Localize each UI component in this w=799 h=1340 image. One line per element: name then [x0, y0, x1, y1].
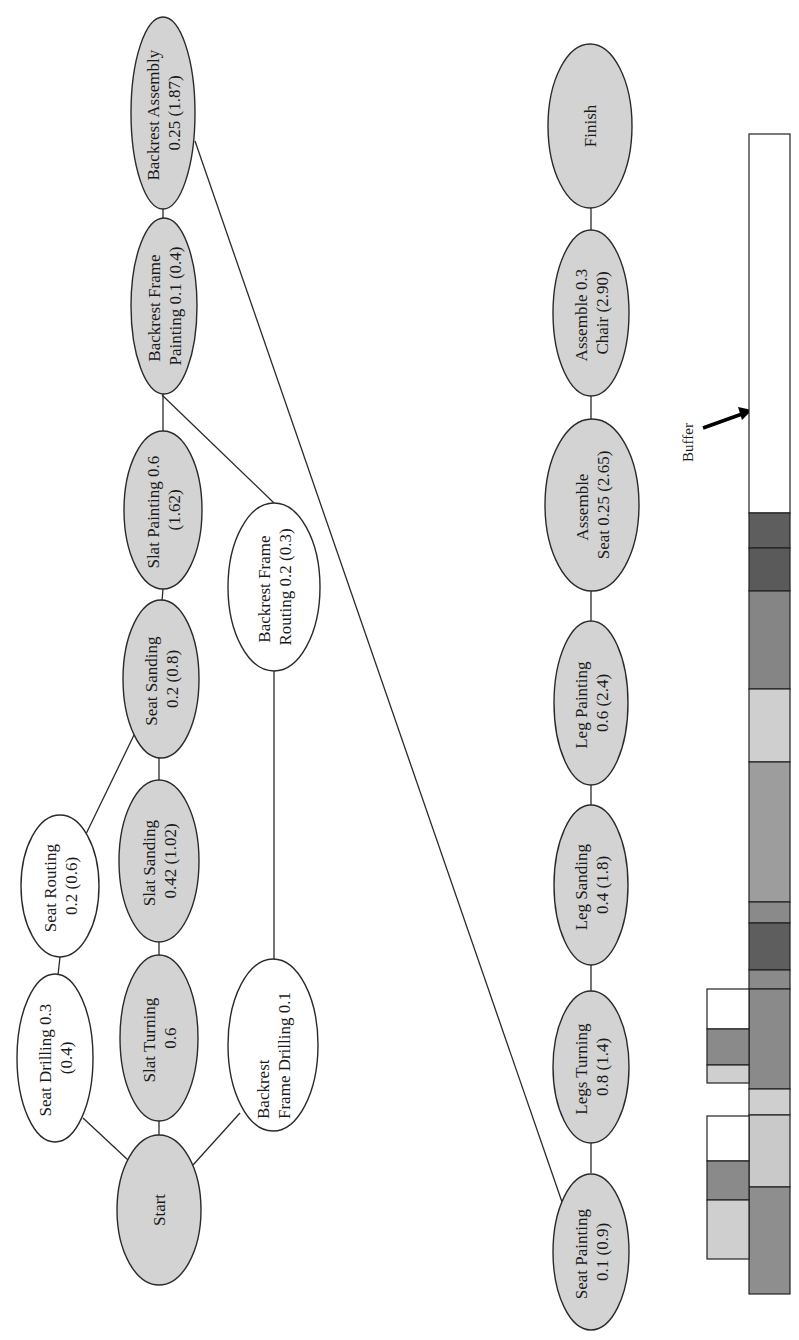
node-slat-turning: Slat Turning 0.6 — [120, 955, 198, 1121]
feeding-buffer-2-light — [707, 1200, 749, 1259]
node-label-seat-painting-1: Seat Painting — [572, 1209, 591, 1300]
node-assemble-chair: Assemble 0.3 Chair (2.90) — [553, 230, 629, 396]
feeding-buffer-bar-2 — [707, 1116, 749, 1259]
node-assemble-seat: Assemble Seat 0.25 (2.65) — [545, 419, 639, 591]
node-label-seat-sanding-2: 0.2 (0.8) — [163, 650, 182, 708]
node-leg-painting: Leg Painting 0.6 (2.4) — [554, 621, 628, 785]
svg-text:Start: Start — [150, 1194, 169, 1226]
node-backrest-frame-drilling: Backrest Frame Drilling 0.1 — [228, 959, 318, 1131]
node-label-leg-sanding-1: Leg Sanding — [572, 843, 591, 930]
node-seat-painting: Seat Painting 0.1 (0.9) — [553, 1174, 629, 1330]
node-label-assemble-chair-1: Assemble 0.3 — [572, 269, 591, 362]
project-buffer-bar — [749, 134, 790, 1294]
critical-chain-network-diagram: Start Seat Drilling 0.3 (0.4) Slat Turni… — [0, 0, 799, 1340]
node-backrest-frame-routing: Backrest Frame Routing 0.2 (0.3) — [228, 503, 320, 671]
node-label-seat-routing-1: Seat Routing — [41, 843, 60, 932]
node-legs-turning: Legs Turning 0.8 (1.4) — [553, 991, 629, 1143]
node-slat-sanding: Slat Sanding 0.42 (1.02) — [119, 780, 199, 942]
node-label-start: Start — [150, 1194, 169, 1226]
node-label-backrest-frame-drilling-1: Backrest — [254, 1059, 273, 1119]
node-label-seat-drilling-1: Seat Drilling 0.3 — [36, 1004, 55, 1117]
node-label-finish: Finish — [581, 104, 600, 147]
node-label-assemble-seat-2: Seat 0.25 (2.65) — [594, 451, 613, 560]
node-label-backrest-frame-painting-1: Backrest Frame — [145, 255, 164, 362]
bar-segment-seat-sanding — [749, 1089, 790, 1115]
node-label-backrest-frame-drilling-2: Frame Drilling 0.1 — [275, 992, 294, 1119]
bar-segment-backrest-assembly — [749, 923, 790, 970]
bar-segment-leg-sanding — [749, 689, 790, 762]
node-slat-painting: Slat Painting 0.6 (1.62) — [124, 431, 202, 589]
node-backrest-frame-painting: Backrest Frame Painting 0.1 (0.4) — [131, 218, 197, 394]
node-leg-sanding: Leg Sanding 0.4 (1.8) — [554, 805, 628, 965]
node-label-legs-turning-1: Legs Turning — [572, 1023, 591, 1115]
node-seat-routing: Seat Routing 0.2 (0.6) — [21, 815, 99, 957]
node-label-leg-painting-2: 0.6 (2.4) — [593, 674, 612, 732]
feeding-buffer-2-white — [707, 1116, 749, 1161]
buffer-annotation: Buffer — [680, 407, 752, 462]
bar-segment-assemble-seat — [749, 548, 790, 591]
node-label-seat-routing-2: 0.2 (0.6) — [62, 857, 81, 915]
edge-seat-drilling-seat-routing — [58, 957, 60, 975]
node-label-seat-drilling-2: (0.4) — [57, 1042, 76, 1075]
node-label-slat-painting-2: (1.62) — [165, 489, 184, 530]
node-label-slat-sanding-2: 0.42 (1.02) — [161, 823, 180, 898]
bar-segment-seat-painting — [749, 902, 790, 923]
bar-segment-buffer-white — [749, 134, 790, 513]
feeding-buffer-2-mid — [707, 1161, 749, 1200]
node-label-slat-sanding-1: Slat Sanding — [140, 819, 159, 906]
node-label-backrest-assembly-2: 0.25 (1.87) — [165, 75, 184, 150]
bar-segment-legs-turning — [749, 762, 790, 902]
edge-start-seat-drilling — [83, 1118, 128, 1160]
node-seat-sanding: Seat Sanding 0.2 (0.8) — [123, 600, 199, 758]
node-label-seat-painting-2: 0.1 (0.9) — [593, 1223, 612, 1281]
feeding-buffer-1-light — [707, 1065, 749, 1083]
node-label-slat-turning-1: Slat Turning — [140, 997, 159, 1082]
node-label-leg-painting-1: Leg Painting — [572, 661, 591, 749]
node-seat-drilling: Seat Drilling 0.3 (0.4) — [17, 974, 93, 1142]
edge-start-backrest-frame-drilling — [193, 1113, 240, 1165]
node-backrest-assembly: Backrest Assembly 0.25 (1.87) — [131, 17, 195, 209]
buffer-label: Buffer — [680, 423, 696, 462]
bar-segment-leg-painting — [749, 591, 790, 689]
buffer-arrow-icon — [703, 414, 742, 428]
node-label-assemble-chair-2: Chair (2.90) — [593, 271, 612, 354]
bar-segment-slat-turning — [749, 1187, 790, 1294]
svg-text:Finish: Finish — [581, 104, 600, 147]
bar-segment-backrest-frame-painting — [749, 970, 790, 989]
feeding-buffer-1-mid — [707, 1029, 749, 1065]
node-label-assemble-seat-1: Assemble — [573, 474, 592, 541]
node-label-backrest-frame-painting-2: Painting 0.1 (0.4) — [166, 247, 185, 366]
feeding-buffer-bar-1 — [707, 989, 749, 1083]
node-label-slat-painting-1: Slat Painting 0.6 — [144, 456, 163, 569]
node-finish: Finish — [548, 44, 632, 208]
edge-seat-sanding-slat-painting — [162, 589, 163, 601]
bar-segment-slat-painting — [749, 989, 790, 1089]
bar-segment-slat-sanding — [749, 1115, 790, 1187]
node-label-backrest-assembly-1: Backrest Assembly — [144, 49, 163, 180]
node-label-leg-sanding-2: 0.4 (1.8) — [593, 856, 612, 914]
node-label-slat-turning-2: 0.6 — [161, 1027, 180, 1048]
node-label-backrest-frame-routing-2: Routing 0.2 (0.3) — [276, 528, 295, 645]
nodes: Start Seat Drilling 0.3 (0.4) Slat Turni… — [17, 17, 639, 1330]
bar-segment-assemble-chair — [749, 513, 790, 548]
node-label-legs-turning-2: 0.8 (1.4) — [593, 1038, 612, 1096]
node-label-backrest-frame-routing-1: Backrest Frame — [255, 536, 274, 643]
node-start: Start — [117, 1135, 201, 1285]
feeding-buffer-1-white — [707, 989, 749, 1029]
node-label-seat-sanding-1: Seat Sanding — [142, 636, 161, 726]
